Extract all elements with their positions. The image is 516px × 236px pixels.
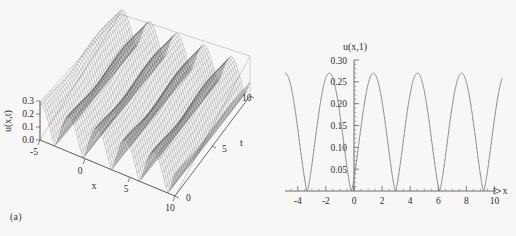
x-tick-label-0: -4 xyxy=(294,196,302,206)
y-tick-label-2: 0.15 xyxy=(330,121,347,131)
z-axis-label: u(x,t) xyxy=(2,110,14,132)
x-tick-label-3: 2 xyxy=(380,196,385,206)
panel-a-caption: (a) xyxy=(10,211,22,222)
mesh-line-x xyxy=(166,82,241,187)
x-tick-label-7: 10 xyxy=(490,196,500,206)
panel-a-surface-plot: 0.0 0.1 0.2 0.3 u(x,t) -5 0 5 10 x xyxy=(0,0,258,236)
plot-title: u(x,1) xyxy=(343,41,367,53)
mesh-line-t xyxy=(109,21,240,107)
z-tick-2: 0.2 xyxy=(22,109,34,119)
surface-plot-svg: 0.0 0.1 0.2 0.3 u(x,t) -5 0 5 10 x xyxy=(0,0,258,236)
y-axis: 0.050.100.150.200.250.30 xyxy=(330,56,359,192)
mesh-line-t xyxy=(116,14,246,98)
two-panel-figure: 0.0 0.1 0.2 0.3 u(x,t) -5 0 5 10 x xyxy=(0,0,516,236)
z-axis: 0.0 0.1 0.2 0.3 u(x,t) xyxy=(2,96,40,145)
x-tick-label-6: 8 xyxy=(464,196,469,206)
mesh-line-x xyxy=(42,10,122,105)
x-tick-label-5: 6 xyxy=(436,196,441,206)
z-tick-3: 0.3 xyxy=(22,96,34,106)
x-tick-label-4: 4 xyxy=(408,196,413,206)
x-tick-label-1: -2 xyxy=(322,196,330,206)
line-plot-svg: 0.050.100.150.200.250.30 -4-20246810 x u… xyxy=(258,0,516,236)
z-tick-0: 0.0 xyxy=(22,135,34,145)
z-tick-1: 0.1 xyxy=(22,122,34,132)
y-tick-label-5: 0.30 xyxy=(330,56,347,66)
u-x-1-curve xyxy=(285,73,502,191)
x-tick-2: 5 xyxy=(124,184,129,194)
x-tick-3: 10 xyxy=(165,203,175,213)
x-axis-label: x xyxy=(503,185,508,196)
x-axis-label: x xyxy=(92,180,97,191)
mesh-line-t xyxy=(113,17,243,102)
plot-frame xyxy=(40,14,250,196)
x-axis: -5 0 5 10 x xyxy=(30,140,175,213)
t-axis-label: t xyxy=(240,137,243,148)
y-tick-group: 0.050.100.150.200.250.30 xyxy=(330,56,359,187)
y-tick-label-0: 0.05 xyxy=(330,165,347,175)
x-tick-label-2: 0 xyxy=(352,196,357,206)
mesh-line-x xyxy=(146,72,222,164)
surface-mesh xyxy=(40,10,250,193)
mesh-line-x xyxy=(67,24,146,117)
mesh-line-t xyxy=(81,56,213,141)
mesh-line-x xyxy=(110,61,187,166)
x-tick-1: 0 xyxy=(78,166,83,176)
t-tick-0: 0 xyxy=(186,193,191,203)
t-tick-1: 5 xyxy=(222,144,227,154)
panel-b-line-plot: 0.050.100.150.200.250.30 -4-20246810 x u… xyxy=(258,0,516,236)
x-tick-0: -5 xyxy=(30,147,38,157)
mesh-line-t xyxy=(115,16,245,101)
